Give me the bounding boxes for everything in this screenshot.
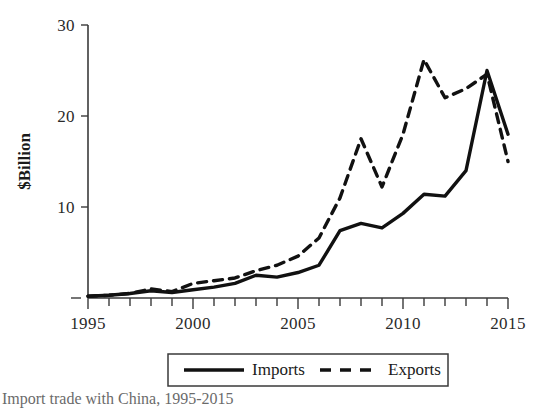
- series-line-exports: [88, 60, 508, 297]
- chart-legend: ImportsExports: [168, 354, 448, 386]
- y-axis-title: $Billion: [15, 133, 34, 190]
- figure-caption: Import trade with China, 1995-2015: [2, 390, 542, 408]
- data-series-group: [88, 60, 508, 297]
- y-axis: 102030$Billion: [15, 16, 88, 298]
- y-tick-label: 10: [57, 198, 75, 217]
- x-axis: 19952000200520102015: [70, 298, 526, 333]
- x-tick-label: 2010: [385, 314, 421, 333]
- x-tick-label: 2000: [175, 314, 211, 333]
- x-tick-label: 2005: [280, 314, 316, 333]
- x-tick-label: 2015: [490, 314, 526, 333]
- series-line-imports: [88, 71, 508, 297]
- x-tick-label: 1995: [70, 314, 106, 333]
- y-tick-label: 30: [57, 16, 75, 35]
- y-tick-label: 20: [57, 107, 75, 126]
- legend-label-imports: Imports: [252, 360, 305, 379]
- legend-label-exports: Exports: [388, 360, 441, 379]
